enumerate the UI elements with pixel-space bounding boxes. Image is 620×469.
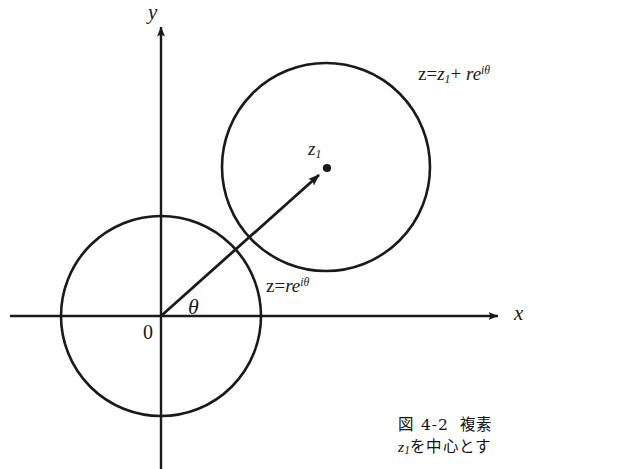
figure-caption-line-2: z1を中心とす xyxy=(398,436,620,459)
figure-canvas: y x 0 θ z1 z=reiθ z=z1+ reiθ 図 4-2複素 z1を… xyxy=(0,0,620,469)
point-z1-label: z1 xyxy=(308,139,321,161)
equation-large-circle: z=z1+ reiθ xyxy=(418,64,490,86)
equation-small-lhs: z= xyxy=(266,275,285,296)
equation-large-exponent: iθ xyxy=(481,64,490,77)
figure-caption-text-1: 複素 xyxy=(460,416,492,434)
y-axis-label: y xyxy=(148,2,157,23)
angle-theta-label: θ xyxy=(188,296,199,318)
figure-caption: 図 4-2複素 z1を中心とす xyxy=(398,414,620,469)
equation-small-exponent: iθ xyxy=(300,276,309,289)
equation-large-radius: r xyxy=(466,63,473,84)
figure-caption-text-2: を中心とす xyxy=(410,438,491,456)
figure-number: 図 4-2 xyxy=(398,416,449,434)
complex-plane-diagram xyxy=(0,0,620,469)
x-axis-label: x xyxy=(514,303,523,324)
point-z1-subscript: 1 xyxy=(315,148,321,161)
point-z1-dot xyxy=(323,164,331,172)
origin-label: 0 xyxy=(143,322,153,342)
equation-small-circle: z=reiθ xyxy=(266,276,309,295)
equation-large-exp-base: e xyxy=(473,63,481,84)
figure-caption-line-1: 図 4-2複素 xyxy=(398,414,620,436)
equation-large-center: z xyxy=(437,63,444,84)
equation-large-lhs: z= xyxy=(418,63,437,84)
equation-large-plus: + xyxy=(450,63,461,84)
equation-small-radius: r xyxy=(285,275,292,296)
